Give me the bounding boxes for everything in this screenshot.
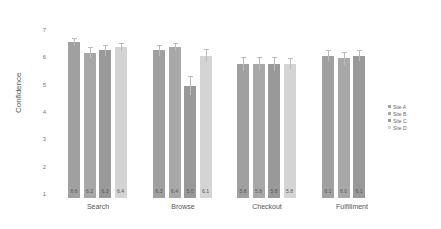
error-bar-cap	[173, 43, 178, 44]
error-bar	[206, 49, 207, 63]
error-bar-cap	[119, 43, 124, 44]
value-label: 6.2	[84, 188, 96, 194]
error-bar-cap	[326, 50, 331, 51]
legend-label: Site A	[393, 104, 406, 110]
value-label: 6.4	[115, 188, 127, 194]
legend-label: Site B	[393, 111, 406, 117]
error-bar-cap	[357, 50, 362, 51]
bar	[353, 56, 365, 198]
error-bar-cap	[103, 45, 108, 46]
value-label: 6.4	[169, 188, 181, 194]
error-bar-cap	[342, 52, 347, 53]
error-bar	[328, 50, 329, 61]
value-label: 6.6	[68, 188, 80, 194]
legend-label: Site C	[393, 118, 407, 124]
bar	[68, 42, 80, 198]
error-bar	[259, 57, 260, 71]
legend-swatch-icon	[388, 119, 391, 122]
x-category-label: Checkout	[232, 203, 302, 210]
value-label: 6.1	[322, 188, 334, 194]
error-bar	[121, 43, 122, 51]
bar	[237, 64, 249, 198]
error-bar	[159, 45, 160, 56]
error-bar	[105, 45, 106, 56]
legend-item: Site B	[388, 110, 407, 117]
y-tick-label: 7	[34, 27, 46, 33]
error-bar-cap	[272, 57, 277, 58]
error-bar-cap	[204, 49, 209, 50]
value-label: 6.1	[200, 188, 212, 194]
bar	[184, 86, 196, 198]
error-bar	[359, 50, 360, 61]
bar	[115, 47, 127, 198]
value-label: 6.3	[99, 188, 111, 194]
error-bar	[74, 38, 75, 46]
legend-swatch-icon	[388, 112, 391, 115]
value-label: 5.8	[284, 188, 296, 194]
error-bar	[175, 43, 176, 51]
error-bar-cap	[241, 57, 246, 58]
bar	[338, 58, 350, 198]
value-label: 6.3	[153, 188, 165, 194]
error-bar-cap	[157, 45, 162, 46]
legend-swatch-icon	[388, 105, 391, 108]
legend-label: Site D	[393, 125, 407, 131]
x-category-label: Browse	[148, 203, 218, 210]
y-tick-label: 5	[34, 82, 46, 88]
value-label: 6.1	[353, 188, 365, 194]
bar	[268, 64, 280, 198]
value-label: 5.0	[184, 188, 196, 194]
error-bar-cap	[257, 57, 262, 58]
error-bar	[90, 47, 91, 58]
bar	[99, 50, 111, 198]
legend-item: Site D	[388, 124, 407, 131]
error-bar	[190, 76, 191, 95]
legend-item: Site C	[388, 117, 407, 124]
y-axis-label: Confidence	[14, 73, 23, 113]
error-bar-cap	[72, 38, 77, 39]
bar	[253, 64, 265, 198]
error-bar	[344, 52, 345, 66]
value-label: 5.8	[237, 188, 249, 194]
y-tick-label: 6	[34, 54, 46, 60]
value-label: 6.0	[338, 188, 350, 194]
y-tick-label: 4	[34, 109, 46, 115]
bar	[200, 56, 212, 198]
value-label: 5.8	[268, 188, 280, 194]
bar	[322, 56, 334, 198]
error-bar	[274, 57, 275, 71]
error-bar	[243, 57, 244, 71]
y-tick-label: 2	[34, 164, 46, 170]
bar	[153, 50, 165, 198]
legend-swatch-icon	[388, 126, 391, 129]
y-tick-label: 1	[34, 191, 46, 197]
error-bar	[290, 58, 291, 69]
error-bar-cap	[188, 76, 193, 77]
bar-chart: Confidence 1234567 6.66.26.36.46.36.45.0…	[0, 0, 441, 229]
x-category-label: Fulfillment	[317, 203, 387, 210]
bar	[284, 64, 296, 198]
x-category-label: Search	[63, 203, 133, 210]
y-tick-label: 3	[34, 136, 46, 142]
legend: Site ASite BSite CSite D	[388, 103, 407, 131]
bar	[84, 53, 96, 198]
bar	[169, 47, 181, 198]
value-label: 5.8	[253, 188, 265, 194]
legend-item: Site A	[388, 103, 407, 110]
error-bar-cap	[88, 47, 93, 48]
error-bar-cap	[288, 58, 293, 59]
